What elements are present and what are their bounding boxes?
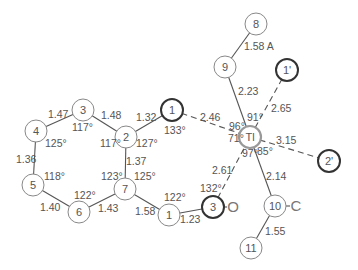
angle-label: 117° bbox=[72, 121, 93, 133]
angle-label: 91° bbox=[247, 111, 263, 123]
bond-length-label: 2.23 bbox=[238, 85, 259, 97]
angle-label: 97° bbox=[242, 147, 258, 159]
bond-length-label: 1.47 bbox=[48, 108, 69, 120]
bond-length-label: 2.14 bbox=[266, 170, 287, 182]
molecular-diagram: OC 891'Tl2'1234567131011 1.58 A 2.23 2.6… bbox=[0, 0, 358, 270]
angle-label: 117° bbox=[100, 137, 121, 149]
atom-label: 1 bbox=[169, 104, 175, 116]
bond-length-label: 2.61 bbox=[212, 164, 233, 176]
atom-label: 1' bbox=[283, 64, 291, 76]
angle-label: 133° bbox=[164, 124, 186, 136]
atom-o8: 8 bbox=[245, 13, 267, 35]
angle-label: 122° bbox=[164, 191, 186, 203]
bond-length-label: 3.15 bbox=[276, 134, 297, 146]
angle-label: 123° bbox=[101, 170, 123, 182]
bond-length-label: 1.37 bbox=[126, 155, 147, 167]
angle-label: 96° bbox=[229, 120, 245, 132]
atom-label: Tl bbox=[245, 131, 254, 143]
bond-length-label: 2.65 bbox=[271, 102, 292, 114]
substituent-label-c: C bbox=[291, 197, 302, 214]
atom-label: 8 bbox=[253, 18, 259, 30]
bond-length-label: 2.46 bbox=[200, 111, 221, 123]
atom-c4: 4 bbox=[25, 120, 47, 142]
bond-length-label: 1.40 bbox=[40, 201, 61, 213]
atom-o2p: 2' bbox=[318, 150, 340, 172]
atom-o1a: 1 bbox=[161, 99, 183, 121]
atom-label: 11 bbox=[245, 242, 256, 254]
atom-label: 6 bbox=[76, 206, 82, 218]
bond-length-label: 1.48 bbox=[101, 109, 122, 121]
bond-length-label: 1.58 A bbox=[244, 40, 274, 52]
atom-c5: 5 bbox=[22, 174, 44, 196]
angle-label: 85° bbox=[257, 145, 273, 157]
atom-label: 1 bbox=[166, 209, 172, 221]
atom-label: 4 bbox=[33, 125, 39, 137]
atom-c3: 3 bbox=[72, 99, 94, 121]
angle-label: 127° bbox=[136, 137, 158, 149]
bond-length-label: 1.32 bbox=[136, 111, 157, 123]
atom-label: 7 bbox=[122, 183, 128, 195]
atom-label: 9 bbox=[222, 61, 228, 73]
atom-o3: 3 bbox=[202, 196, 224, 218]
atom-c11: 11 bbox=[240, 237, 262, 259]
angle-label: 122° bbox=[74, 189, 96, 201]
bond-length-label: 1.36 bbox=[16, 153, 37, 165]
angle-label: 125° bbox=[45, 137, 67, 149]
atom-label: 3 bbox=[80, 104, 86, 116]
atom-label: 2 bbox=[123, 131, 129, 143]
atom-label: 3 bbox=[210, 201, 216, 213]
bond-length-label: 1.58 bbox=[135, 205, 156, 217]
substituent-label-o: O bbox=[227, 198, 239, 215]
bond-length-label: 1.43 bbox=[98, 202, 119, 214]
angle-label: 71° bbox=[228, 132, 244, 144]
substituent-bonds-layer: OC bbox=[224, 197, 302, 215]
angle-label: 132° bbox=[200, 182, 222, 194]
atom-label: 5 bbox=[30, 179, 36, 191]
atom-c6: 6 bbox=[68, 201, 90, 223]
bond-length-label: 1.55 bbox=[265, 225, 286, 237]
atom-n9: 9 bbox=[214, 56, 236, 78]
bond-length-label: 1.23 bbox=[180, 213, 201, 225]
atom-label: 10 bbox=[269, 200, 281, 212]
atom-c1b: 1 bbox=[158, 204, 180, 226]
angle-label: 118° bbox=[44, 170, 65, 182]
angle-label: 125° bbox=[134, 170, 156, 182]
atom-o1p: 1' bbox=[276, 59, 298, 81]
atom-label: 2' bbox=[325, 155, 333, 167]
atom-c10: 10 bbox=[264, 195, 286, 217]
